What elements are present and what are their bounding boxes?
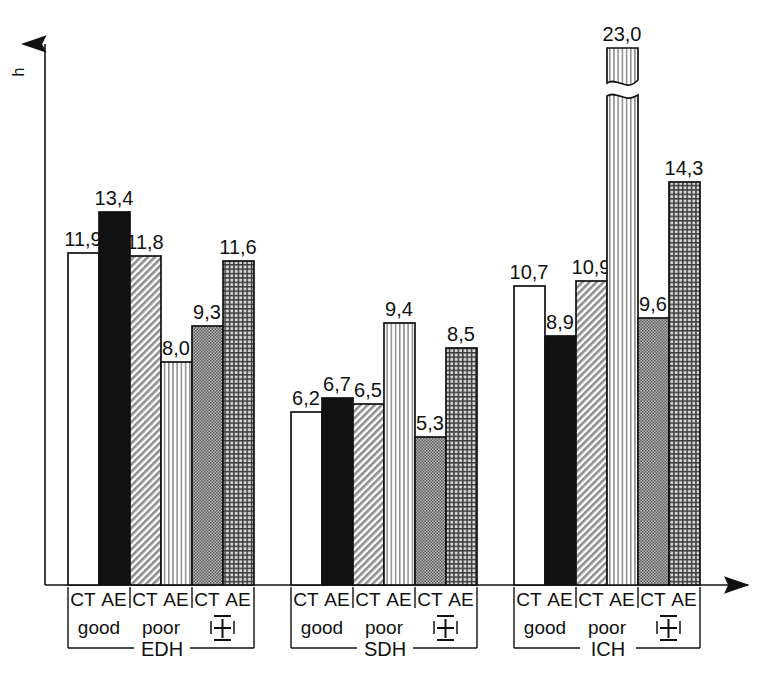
bar-value-label: 8,0 xyxy=(162,337,190,359)
bar-value-label: 10,9 xyxy=(572,256,611,278)
bar-sdh-ct-good xyxy=(291,412,322,585)
axis-tick-ct: CT xyxy=(293,589,319,610)
bar-ich-ae-mean xyxy=(669,182,700,585)
bar-edh-ct-mean xyxy=(192,326,223,585)
axis-tick-ae: AE xyxy=(324,589,349,610)
axis-tick-ae: AE xyxy=(386,589,411,610)
condition-label-good: good xyxy=(301,617,343,638)
axis-annotation-sdh: CT AE CT AE CT AE good poor SDH xyxy=(291,587,477,660)
bar-value-label: 11,8 xyxy=(126,231,163,253)
condition-label-poor: poor xyxy=(365,617,404,638)
bar-value-label: 11,9 xyxy=(64,228,101,250)
bar-sdh-ct-poor xyxy=(353,404,384,585)
mean-se-icon xyxy=(211,616,234,640)
axis-tick-ct: CT xyxy=(355,589,381,610)
bar-chart-canvas: h 11,9 13,4 11,8 8,0 9,3 11,6 xyxy=(0,0,783,681)
condition-label-good: good xyxy=(78,617,120,638)
bar-sdh-ae-poor xyxy=(384,323,415,585)
bar-value-label: 6,2 xyxy=(292,387,320,409)
bar-group-sdh: 6,2 6,7 6,5 9,4 5,3 8,5 xyxy=(291,298,477,585)
bar-value-label: 13,4 xyxy=(95,187,134,209)
axis-tick-ae: AE xyxy=(163,589,188,610)
axis-tick-ae: AE xyxy=(609,589,634,610)
y-axis-label: h xyxy=(10,68,27,77)
bar-group-edh: 11,9 13,4 11,8 8,0 9,3 11,6 xyxy=(64,187,256,585)
bar-ich-ae-poor-lower xyxy=(607,94,638,585)
bar-value-label: 23,0 xyxy=(603,23,642,45)
bar-sdh-ct-mean xyxy=(415,437,446,585)
axis-tick-ae: AE xyxy=(547,589,572,610)
group-label-sdh: SDH xyxy=(364,638,406,660)
group-label-ich: ICH xyxy=(591,638,625,660)
condition-label-poor: poor xyxy=(588,617,627,638)
condition-label-poor: poor xyxy=(142,617,181,638)
bar-value-label: 5,3 xyxy=(416,412,444,434)
axis-annotation-edh: CT AE CT AE CT AE good poor EDH xyxy=(68,587,254,660)
condition-label-good: good xyxy=(524,617,566,638)
axis-annotation-ich: CT AE CT AE CT AE good poor ICH xyxy=(514,587,700,660)
bar-value-label: 10,7 xyxy=(510,261,549,283)
bar-ich-ae-good xyxy=(545,336,576,585)
axis-tick-ct: CT xyxy=(640,589,666,610)
axis-tick-ae: AE xyxy=(448,589,473,610)
axis-tick-ae: AE xyxy=(225,589,250,610)
bar-value-label: 9,3 xyxy=(193,301,221,323)
bar-ich-ct-poor xyxy=(576,281,607,585)
group-label-edh: EDH xyxy=(141,638,183,660)
bar-group-ich: 10,7 8,9 10,9 23,0 9,6 14,3 xyxy=(510,23,704,585)
mean-se-icon xyxy=(657,616,680,640)
axis-tick-ct: CT xyxy=(70,589,96,610)
bar-value-label: 6,5 xyxy=(354,379,382,401)
axis-tick-ct: CT xyxy=(194,589,220,610)
bar-value-label: 8,9 xyxy=(546,311,574,333)
axis-tick-ae: AE xyxy=(671,589,696,610)
axis-tick-ct: CT xyxy=(132,589,158,610)
axis-tick-ct: CT xyxy=(417,589,443,610)
axis-tick-ae: AE xyxy=(101,589,126,610)
bar-value-label: 11,6 xyxy=(219,236,256,258)
mean-se-icon xyxy=(434,616,457,640)
bar-value-label: 6,7 xyxy=(323,373,351,395)
bar-ich-ae-poor-upper xyxy=(607,48,638,85)
bar-edh-ct-poor xyxy=(130,256,161,585)
bar-edh-ae-good xyxy=(99,212,130,585)
bar-ich-ct-good xyxy=(514,286,545,585)
bar-sdh-ae-good xyxy=(322,398,353,585)
bar-sdh-ae-mean xyxy=(446,348,477,585)
bar-ich-ae-poor-broken xyxy=(607,48,638,585)
axis-tick-ct: CT xyxy=(516,589,542,610)
axis-tick-ct: CT xyxy=(578,589,604,610)
bar-value-label: 9,6 xyxy=(639,293,667,315)
bar-value-label: 9,4 xyxy=(385,298,413,320)
bar-value-label: 8,5 xyxy=(447,323,475,345)
bar-edh-ct-good xyxy=(68,253,99,585)
chart-figure: h 11,9 13,4 11,8 8,0 9,3 11,6 xyxy=(0,0,783,681)
bar-edh-ae-poor xyxy=(161,362,192,585)
bar-edh-ae-mean xyxy=(223,261,254,585)
bar-value-label: 14,3 xyxy=(665,157,704,179)
bar-ich-ct-mean xyxy=(638,318,669,585)
